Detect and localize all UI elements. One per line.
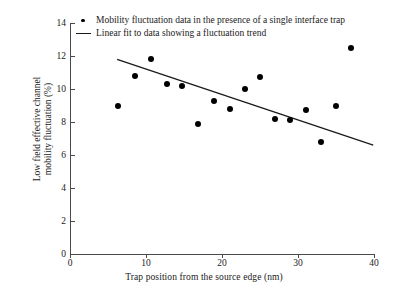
data-point	[287, 117, 293, 123]
data-point	[348, 45, 354, 51]
y-tick	[71, 254, 75, 255]
y-tick	[71, 221, 75, 222]
data-point	[148, 56, 154, 62]
y-tick-label: 6	[61, 150, 66, 160]
legend-item-fit: Linear fit to data showing a fluctuation…	[72, 27, 345, 40]
y-tick-label: 10	[57, 84, 67, 94]
x-tick-label: 40	[369, 258, 379, 268]
y-axis-title: Low field effective channel mobility flu…	[32, 4, 54, 254]
data-point	[164, 81, 170, 87]
legend-label-data: Mobility fluctuation data in the presenc…	[94, 14, 345, 27]
data-point	[333, 103, 339, 109]
y-tick	[71, 122, 75, 123]
y-axis-title-line1: Low field effective channel	[32, 4, 43, 254]
y-axis-line	[70, 23, 71, 254]
chart-legend: Mobility fluctuation data in the presenc…	[72, 14, 345, 40]
y-tick-label: 12	[57, 51, 67, 61]
y-tick	[71, 155, 75, 156]
y-axis-title-line2: mobility fluctuation (%)	[43, 4, 54, 254]
data-point	[132, 73, 138, 79]
data-point	[303, 107, 309, 113]
y-tick	[71, 56, 75, 57]
x-axis-title: Trap position from the source edge (nm)	[0, 272, 408, 282]
y-tick	[71, 188, 75, 189]
y-tick-label: 14	[57, 18, 67, 28]
x-tick-label: 30	[293, 258, 303, 268]
data-point	[318, 139, 324, 145]
y-tick-label: 0	[61, 249, 66, 259]
x-tick-label: 0	[68, 258, 73, 268]
data-point	[211, 98, 217, 104]
legend-label-fit: Linear fit to data showing a fluctuation…	[94, 27, 266, 40]
y-tick-label: 4	[61, 183, 66, 193]
x-tick-label: 10	[141, 258, 151, 268]
data-point	[115, 103, 121, 109]
y-tick-label: 8	[61, 117, 66, 127]
data-point	[195, 121, 201, 127]
data-point	[227, 106, 233, 112]
y-tick	[71, 89, 75, 90]
legend-marker-dot-icon	[72, 19, 94, 23]
data-point	[257, 74, 263, 80]
legend-marker-line-icon	[72, 33, 94, 34]
data-point	[272, 116, 278, 122]
x-tick-label: 20	[217, 258, 227, 268]
data-point	[179, 83, 185, 89]
data-point	[242, 86, 248, 92]
y-tick-label: 2	[61, 216, 66, 226]
legend-item-data: Mobility fluctuation data in the presenc…	[72, 14, 345, 27]
chart-figure: 010203040 02468101214 Mobility fluctuati…	[0, 0, 408, 297]
